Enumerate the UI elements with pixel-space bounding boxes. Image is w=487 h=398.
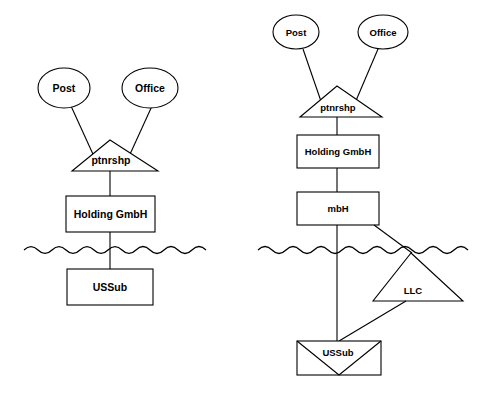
right-diagram: Post Office ptnrshp Holding GmbH mbH LLC [258, 15, 468, 375]
node-ptnrshp-right-label: ptnrshp [320, 102, 356, 113]
border-wavy-line-right [258, 247, 468, 254]
node-post-right-label: Post [286, 27, 307, 38]
node-llc-right-label: LLC [404, 285, 423, 296]
node-office-right-label: Office [370, 27, 397, 38]
node-holding-gmbh-left-label: Holding GmbH [74, 208, 148, 220]
node-holding-gmbh-right-label: Holding GmbH [305, 146, 372, 157]
node-office-left-label: Office [135, 82, 165, 94]
left-diagram: Post Office ptnrshp Holding GmbH USSub [24, 68, 206, 305]
node-mbh-right-label: mbH [327, 203, 348, 214]
node-ussub-left-label: USSub [93, 281, 127, 293]
entity-structure-figure: Post Office ptnrshp Holding GmbH USSub P… [0, 0, 487, 398]
node-post-left-label: Post [53, 82, 76, 94]
edge-llc-to-ussub-right [339, 301, 406, 341]
border-wavy-line-left [24, 247, 206, 254]
edge-mbh-to-llc-right [374, 225, 412, 253]
node-ussub-right-label: USSub [322, 347, 353, 358]
node-ptnrshp-left-label: ptnrshp [91, 154, 130, 166]
